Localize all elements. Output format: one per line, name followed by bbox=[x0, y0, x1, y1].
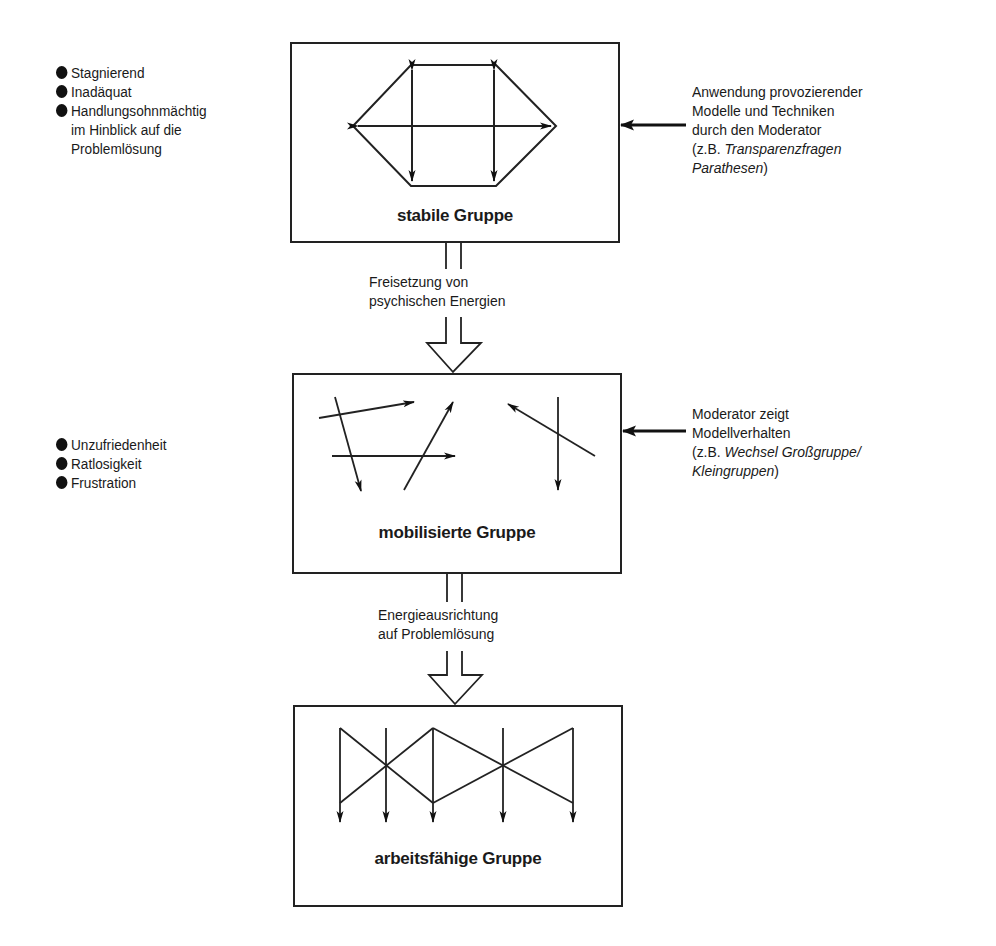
stage-title: mobilisierte Gruppe bbox=[294, 523, 620, 543]
bullet-icon bbox=[56, 438, 67, 451]
bullet-icon bbox=[56, 457, 67, 470]
stage-title: stabile Gruppe bbox=[292, 206, 618, 226]
stage-2-symptoms: Unzufriedenheit Ratlosigkeit Frustration bbox=[56, 435, 167, 492]
moderator-intervention-1: Anwendung provozierender Modelle und Tec… bbox=[692, 82, 863, 177]
symptom-item: Frustration bbox=[56, 473, 167, 492]
stage-box-working: arbeitsfähige Gruppe bbox=[293, 705, 623, 907]
bullet-icon bbox=[56, 104, 67, 117]
stage-box-stable: stabile Gruppe bbox=[290, 42, 620, 243]
stage-box-mobilized: mobilisierte Gruppe bbox=[292, 373, 622, 574]
transition-label-1: Freisetzung von psychischen Energien bbox=[369, 270, 505, 312]
symptom-item: Handlungsohnmächtig im Hinblick auf die … bbox=[56, 101, 207, 158]
symptom-item: Stagnierend bbox=[56, 63, 207, 82]
symptom-item: Unzufriedenheit bbox=[56, 435, 167, 454]
bullet-icon bbox=[56, 66, 67, 79]
stage-1-symptoms: Stagnierend Inadäquat Handlungsohnmächti… bbox=[56, 63, 207, 158]
symptom-item: Ratlosigkeit bbox=[56, 454, 167, 473]
transition-label-2: Energieausrichtung auf Problemlösung bbox=[378, 603, 498, 645]
symptom-item: Inadäquat bbox=[56, 82, 207, 101]
bullet-icon bbox=[56, 85, 67, 98]
bullet-icon bbox=[56, 476, 67, 489]
stage-title: arbeitsfähige Gruppe bbox=[295, 849, 621, 869]
moderator-intervention-2: Moderator zeigt Modellverhalten (z.B. We… bbox=[692, 404, 861, 480]
